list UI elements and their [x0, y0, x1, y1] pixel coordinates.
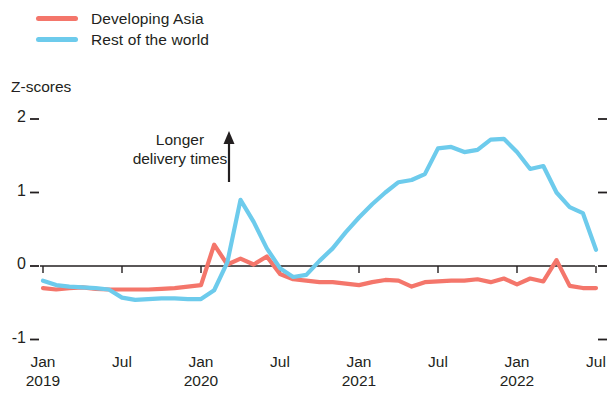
x-tick-month: Jul	[566, 352, 610, 371]
x-tick-label: Jul	[408, 352, 468, 371]
x-tick-year: 2020	[171, 371, 231, 390]
x-tick-year: 2021	[329, 371, 389, 390]
x-tick-month: Jan	[487, 352, 547, 371]
series-line-developing-asia	[43, 245, 596, 290]
y-axis-ticks-left	[30, 119, 39, 340]
y-tick-label: 1	[0, 182, 26, 200]
x-tick-month: Jan	[13, 352, 73, 371]
x-tick-label: Jul	[566, 352, 610, 371]
x-tick-month: Jan	[329, 352, 389, 371]
y-tick-label: 2	[0, 108, 26, 126]
x-tick-month: Jul	[250, 352, 310, 371]
x-tick-label: Jan2019	[13, 352, 73, 390]
y-tick-label: 0	[0, 255, 26, 273]
x-tick-month: Jan	[171, 352, 231, 371]
x-tick-month: Jul	[92, 352, 152, 371]
series-line-rest-of-the-world	[43, 139, 596, 300]
x-tick-month: Jul	[408, 352, 468, 371]
y-axis-ticks-right	[598, 119, 607, 340]
annotation-up-arrow	[224, 131, 235, 182]
x-axis-ticks	[43, 266, 596, 273]
x-tick-label: Jan2021	[329, 352, 389, 390]
x-tick-label: Jan2022	[487, 352, 547, 390]
chart-plot-area	[0, 0, 610, 400]
x-tick-year: 2022	[487, 371, 547, 390]
x-tick-label: Jan2020	[171, 352, 231, 390]
x-tick-year: 2019	[13, 371, 73, 390]
chart-series-group	[43, 139, 596, 300]
y-tick-label: -1	[0, 329, 26, 347]
x-tick-label: Jul	[92, 352, 152, 371]
chart-container: Developing Asia Rest of the world Z-scor…	[0, 0, 610, 400]
x-tick-label: Jul	[250, 352, 310, 371]
